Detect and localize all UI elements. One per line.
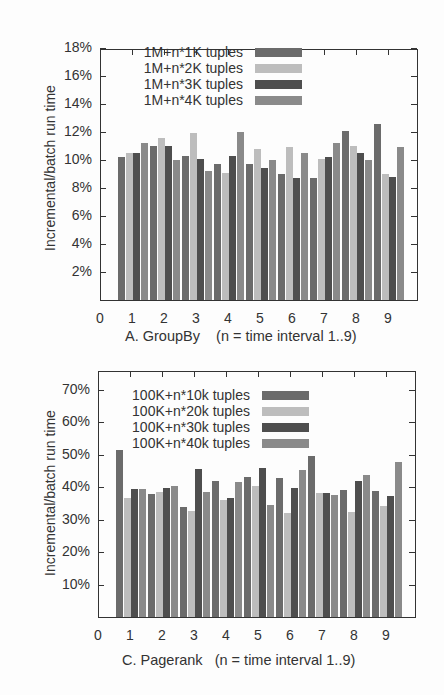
- y-tick-label: 70%: [44, 381, 90, 397]
- bar: [252, 486, 259, 617]
- x-tick-mark: [194, 371, 195, 377]
- bar: [348, 512, 355, 617]
- x-tick-mark: [130, 371, 131, 377]
- bar: [156, 492, 163, 617]
- x-tick-label: 2: [152, 627, 172, 643]
- bar: [355, 481, 362, 617]
- bar: [124, 498, 131, 617]
- legend-label: 100K+n*30k tuples: [132, 419, 250, 435]
- bar: [340, 490, 347, 617]
- bar: [171, 486, 178, 617]
- bar: [244, 477, 251, 617]
- legend-item: 100K+n*20k tuples: [132, 403, 309, 419]
- bar: [267, 505, 274, 617]
- y-tick-label: 20%: [44, 543, 90, 559]
- x-tick-mark: [226, 371, 227, 377]
- bar: [139, 489, 146, 617]
- bar: [195, 469, 202, 617]
- x-tick-label: 9: [376, 627, 396, 643]
- x-tick-mark: [354, 371, 355, 377]
- x-tick-mark: [162, 371, 163, 377]
- x-tick-label: 1: [120, 627, 140, 643]
- x-tick-label: 4: [216, 627, 236, 643]
- pagerank-chart: Incremental/batch run time 10%20%30%40%5…: [0, 0, 444, 695]
- bar: [203, 492, 210, 617]
- bar: [387, 496, 394, 617]
- bar: [212, 481, 219, 617]
- bar: [259, 468, 266, 617]
- legend-item: 100K+n*10k tuples: [132, 387, 309, 403]
- bar: [316, 493, 323, 617]
- x-tick-mark: [258, 371, 259, 377]
- y-tick-label: 30%: [44, 511, 90, 527]
- chart-caption: C. Pagerank (n = time interval 1..9): [122, 652, 355, 668]
- bar: [299, 470, 306, 617]
- bar: [323, 493, 330, 617]
- bar: [220, 500, 227, 617]
- legend-swatch: [262, 423, 309, 432]
- legend-label: 100K+n*20k tuples: [132, 403, 250, 419]
- x-tick-label: 0: [88, 627, 108, 643]
- y-tick-label: 40%: [44, 478, 90, 494]
- legend-item: 100K+n*30k tuples: [132, 419, 309, 435]
- bar: [372, 491, 379, 617]
- bar: [308, 456, 315, 617]
- bar: [188, 511, 195, 617]
- legend-item: 100K+n*40k tuples: [132, 435, 309, 451]
- bar: [227, 498, 234, 617]
- bar: [284, 513, 291, 617]
- bar: [163, 488, 170, 617]
- x-tick-label: 5: [248, 627, 268, 643]
- bar: [291, 488, 298, 617]
- bar: [331, 495, 338, 617]
- bar: [235, 482, 242, 617]
- x-tick-label: 8: [344, 627, 364, 643]
- x-tick-mark: [322, 371, 323, 377]
- legend-label: 100K+n*10k tuples: [132, 387, 250, 403]
- bar: [148, 494, 155, 618]
- legend-label: 100K+n*40k tuples: [132, 435, 250, 451]
- legend-swatch: [262, 439, 309, 448]
- bar: [180, 507, 187, 618]
- x-tick-mark: [386, 371, 387, 377]
- x-tick-label: 3: [184, 627, 204, 643]
- x-tick-mark: [290, 371, 291, 377]
- bar: [276, 478, 283, 617]
- x-tick-label: 7: [312, 627, 332, 643]
- y-tick-label: 10%: [44, 576, 90, 592]
- x-tick-label: 6: [280, 627, 300, 643]
- y-tick-label: 50%: [44, 446, 90, 462]
- bar: [395, 462, 402, 617]
- bar: [131, 489, 138, 617]
- bar: [116, 450, 123, 617]
- legend-swatch: [262, 407, 309, 416]
- legend-swatch: [262, 391, 309, 400]
- bar: [363, 475, 370, 617]
- bar: [380, 506, 387, 617]
- y-tick-label: 60%: [44, 413, 90, 429]
